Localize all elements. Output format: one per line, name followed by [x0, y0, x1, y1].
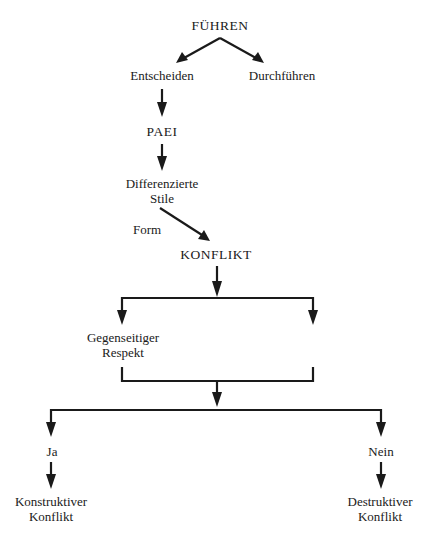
arrow-entscheiden-to-paei: [157, 89, 167, 117]
arrow-paei-to-differenzierte-stile: [157, 144, 167, 171]
arrow-fuehren-to-durchfuehren: [220, 38, 264, 63]
arrow-nein-to-destruktiver: [376, 462, 386, 489]
node-konstruktiver-konflikt-line-1: Konstruktiver: [15, 494, 87, 509]
node-differenzierte-stile-line-2: Stile: [126, 191, 199, 206]
arrow-ja-to-konstruktiver: [46, 462, 56, 489]
node-konflikt: KONFLIKT: [180, 247, 252, 262]
node-konstruktiver-konflikt: Konstruktiver Konflikt: [15, 494, 87, 524]
node-durchfuehren: Durchführen: [249, 68, 315, 83]
node-differenzierte-stile: Differenzierte Stile: [126, 176, 199, 206]
node-fuehren: FÜHREN: [191, 18, 248, 33]
node-destruktiver-konflikt-line-2: Konflikt: [348, 509, 413, 524]
node-differenzierte-stile-line-1: Differenzierte: [126, 176, 199, 191]
upper-split-bracket: [117, 298, 318, 325]
node-konstruktiver-konflikt-line-2: Konflikt: [15, 509, 87, 524]
arrow-stile-to-konflikt: [160, 208, 210, 241]
node-destruktiver-konflikt: Destruktiver Konflikt: [348, 494, 413, 524]
node-paei: PAEI: [147, 124, 178, 139]
flow-diagram: FÜHREN Entscheiden Durchführen PAEI Diff…: [0, 0, 429, 541]
node-gegenseitiger-respekt-line-2: Respekt: [87, 345, 159, 360]
node-destruktiver-konflikt-line-1: Destruktiver: [348, 494, 413, 509]
node-entscheiden: Entscheiden: [130, 68, 194, 83]
bottom-split-line: [46, 410, 386, 437]
arrow-konflikt-down: [212, 266, 222, 297]
node-ja: Ja: [47, 444, 58, 459]
connector-layer: [0, 0, 429, 541]
lower-merge-bracket: [122, 367, 313, 407]
node-nein: Nein: [368, 444, 393, 459]
arrow-fuehren-to-entscheiden: [176, 38, 220, 63]
edge-label-form: Form: [133, 222, 161, 237]
node-gegenseitiger-respekt: Gegenseitiger Respekt: [87, 330, 159, 360]
node-gegenseitiger-respekt-line-1: Gegenseitiger: [87, 330, 159, 345]
